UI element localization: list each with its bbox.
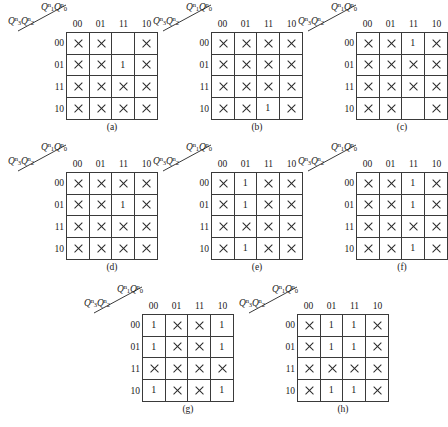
kmap-cell[interactable]: 1: [402, 195, 425, 217]
kmap-cell[interactable]: [212, 76, 235, 98]
kmap-cell[interactable]: [380, 238, 403, 260]
kmap-cell[interactable]: [212, 195, 235, 217]
kmap-cell[interactable]: [425, 98, 448, 120]
kmap-cell[interactable]: [90, 76, 113, 98]
kmap-cell[interactable]: [188, 358, 211, 380]
kmap-cell[interactable]: [235, 216, 258, 238]
kmap-cell[interactable]: [257, 76, 280, 98]
kmap-cell[interactable]: [112, 216, 135, 238]
kmap-cell[interactable]: [257, 55, 280, 77]
kmap-cell[interactable]: [67, 238, 90, 260]
kmap-cell[interactable]: 1: [321, 380, 344, 402]
kmap-cell[interactable]: [380, 173, 403, 195]
kmap-cell[interactable]: 1: [235, 195, 258, 217]
kmap-cell[interactable]: 1: [343, 337, 366, 359]
kmap-cell[interactable]: 1: [112, 55, 135, 77]
kmap-cell[interactable]: [425, 195, 448, 217]
kmap-cell[interactable]: 1: [235, 238, 258, 260]
kmap-cell[interactable]: 1: [343, 315, 366, 337]
kmap-cell[interactable]: 1: [257, 98, 280, 120]
kmap-cell[interactable]: [235, 55, 258, 77]
kmap-cell[interactable]: [90, 55, 113, 77]
kmap-cell[interactable]: [67, 173, 90, 195]
kmap-cell[interactable]: [257, 173, 280, 195]
kmap-cell[interactable]: [380, 98, 403, 120]
kmap-cell[interactable]: [67, 76, 90, 98]
kmap-cell[interactable]: [257, 216, 280, 238]
kmap-cell[interactable]: [235, 76, 258, 98]
kmap-cell[interactable]: [112, 238, 135, 260]
kmap-cell[interactable]: 1: [211, 315, 234, 337]
kmap-cell[interactable]: [343, 358, 366, 380]
kmap-cell[interactable]: 1: [321, 337, 344, 359]
kmap-cell[interactable]: 1: [143, 380, 166, 402]
kmap-cell[interactable]: [112, 98, 135, 120]
kmap-cell[interactable]: [366, 358, 389, 380]
kmap-cell[interactable]: [425, 33, 448, 55]
kmap-cell[interactable]: [298, 315, 321, 337]
kmap-cell[interactable]: [112, 33, 135, 55]
kmap-cell[interactable]: [366, 380, 389, 402]
kmap-cell[interactable]: [235, 98, 258, 120]
kmap-cell[interactable]: 1: [402, 238, 425, 260]
kmap-cell[interactable]: [211, 358, 234, 380]
kmap-cell[interactable]: 1: [211, 380, 234, 402]
kmap-cell[interactable]: [380, 76, 403, 98]
kmap-cell[interactable]: 1: [143, 315, 166, 337]
kmap-cell[interactable]: [357, 98, 380, 120]
kmap-cell[interactable]: [90, 195, 113, 217]
kmap-cell[interactable]: [357, 55, 380, 77]
kmap-cell[interactable]: [90, 216, 113, 238]
kmap-cell[interactable]: [143, 358, 166, 380]
kmap-cell[interactable]: [425, 238, 448, 260]
kmap-cell[interactable]: [402, 216, 425, 238]
kmap-cell[interactable]: [425, 216, 448, 238]
kmap-cell[interactable]: 1: [143, 337, 166, 359]
kmap-cell[interactable]: [402, 76, 425, 98]
kmap-cell[interactable]: [188, 380, 211, 402]
kmap-cell[interactable]: [357, 76, 380, 98]
kmap-cell[interactable]: [425, 173, 448, 195]
kmap-cell[interactable]: [90, 33, 113, 55]
kmap-cell[interactable]: [212, 173, 235, 195]
kmap-cell[interactable]: [366, 315, 389, 337]
kmap-cell[interactable]: [166, 358, 189, 380]
kmap-cell[interactable]: [380, 216, 403, 238]
kmap-cell[interactable]: [402, 98, 425, 120]
kmap-cell[interactable]: 1: [402, 173, 425, 195]
kmap-cell[interactable]: [67, 55, 90, 77]
kmap-cell[interactable]: [212, 238, 235, 260]
kmap-cell[interactable]: [112, 173, 135, 195]
kmap-cell[interactable]: [188, 315, 211, 337]
kmap-cell[interactable]: [166, 337, 189, 359]
kmap-cell[interactable]: [212, 33, 235, 55]
kmap-cell[interactable]: [257, 33, 280, 55]
kmap-cell[interactable]: [67, 33, 90, 55]
kmap-cell[interactable]: [321, 358, 344, 380]
kmap-cell[interactable]: [357, 33, 380, 55]
kmap-cell[interactable]: [166, 380, 189, 402]
kmap-cell[interactable]: [257, 238, 280, 260]
kmap-cell[interactable]: [90, 173, 113, 195]
kmap-cell[interactable]: [402, 55, 425, 77]
kmap-cell[interactable]: 1: [235, 173, 258, 195]
kmap-cell[interactable]: [257, 195, 280, 217]
kmap-cell[interactable]: [166, 315, 189, 337]
kmap-cell[interactable]: [67, 195, 90, 217]
kmap-cell[interactable]: [298, 337, 321, 359]
kmap-cell[interactable]: [90, 98, 113, 120]
kmap-cell[interactable]: [212, 55, 235, 77]
kmap-cell[interactable]: 1: [402, 33, 425, 55]
kmap-cell[interactable]: [188, 337, 211, 359]
kmap-cell[interactable]: [298, 358, 321, 380]
kmap-cell[interactable]: [235, 33, 258, 55]
kmap-cell[interactable]: [357, 238, 380, 260]
kmap-cell[interactable]: [425, 76, 448, 98]
kmap-cell[interactable]: [366, 337, 389, 359]
kmap-cell[interactable]: 1: [321, 315, 344, 337]
kmap-cell[interactable]: [380, 33, 403, 55]
kmap-cell[interactable]: 1: [211, 337, 234, 359]
kmap-cell[interactable]: [357, 216, 380, 238]
kmap-cell[interactable]: [357, 195, 380, 217]
kmap-cell[interactable]: [380, 55, 403, 77]
